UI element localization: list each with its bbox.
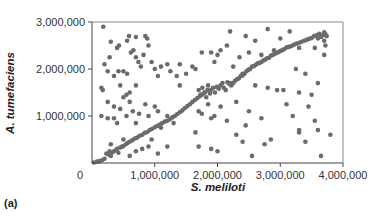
data-point bbox=[319, 154, 324, 159]
data-point bbox=[146, 43, 151, 48]
data-point bbox=[117, 43, 122, 48]
data-point bbox=[134, 121, 139, 126]
data-point bbox=[116, 150, 121, 155]
data-point bbox=[240, 140, 245, 145]
data-point bbox=[323, 43, 328, 48]
data-point bbox=[127, 34, 132, 39]
data-point bbox=[209, 50, 214, 55]
data-point bbox=[153, 104, 158, 109]
data-point bbox=[297, 128, 302, 133]
data-point bbox=[287, 29, 292, 34]
data-point bbox=[324, 34, 329, 39]
data-point bbox=[200, 50, 205, 55]
data-point bbox=[143, 102, 148, 107]
data-point bbox=[212, 114, 217, 119]
data-point bbox=[159, 64, 164, 69]
data-point bbox=[200, 111, 205, 116]
y-tick-label: 2,000,000 bbox=[36, 63, 85, 75]
data-point bbox=[112, 116, 117, 121]
data-point bbox=[165, 144, 170, 149]
data-point bbox=[165, 62, 170, 67]
data-point bbox=[196, 144, 201, 149]
data-point bbox=[141, 53, 146, 58]
data-point bbox=[215, 149, 220, 154]
data-point bbox=[218, 104, 223, 109]
data-point bbox=[259, 53, 264, 58]
x-axis-title: S. meliloti bbox=[191, 181, 246, 193]
y-ticks: 1,000,0002,000,0003,000,000 bbox=[36, 16, 92, 122]
data-point bbox=[156, 151, 161, 156]
data-point bbox=[171, 121, 176, 126]
data-point bbox=[102, 62, 107, 67]
data-point bbox=[193, 67, 198, 72]
data-point bbox=[213, 90, 218, 95]
data-point bbox=[211, 86, 216, 91]
data-point bbox=[200, 86, 205, 91]
data-point bbox=[247, 50, 252, 55]
data-point bbox=[322, 53, 327, 58]
data-point bbox=[209, 147, 214, 152]
data-point bbox=[137, 111, 142, 116]
data-point bbox=[297, 90, 302, 95]
data-point bbox=[115, 121, 120, 126]
data-point bbox=[328, 133, 333, 138]
data-point bbox=[247, 109, 252, 114]
data-point bbox=[228, 29, 233, 34]
data-point bbox=[265, 27, 270, 32]
data-point bbox=[309, 93, 314, 98]
data-point bbox=[281, 88, 286, 93]
data-point bbox=[146, 144, 151, 149]
data-point bbox=[231, 64, 236, 69]
panel-label: (a) bbox=[4, 197, 17, 209]
data-point bbox=[225, 118, 230, 123]
data-point bbox=[140, 147, 145, 152]
data-point bbox=[118, 83, 123, 88]
data-point bbox=[105, 100, 110, 105]
data-point bbox=[262, 142, 267, 147]
data-point bbox=[306, 104, 311, 109]
data-point bbox=[313, 118, 318, 123]
data-point bbox=[243, 34, 248, 39]
data-point bbox=[168, 69, 173, 74]
data-point bbox=[105, 116, 110, 121]
x-tick-label: 1,000,000 bbox=[130, 169, 179, 181]
data-point bbox=[136, 60, 141, 65]
y-axis-title: A. tumefaciens bbox=[4, 52, 16, 135]
data-point bbox=[174, 74, 179, 79]
y-tick-label: 3,000,000 bbox=[36, 16, 85, 28]
data-point bbox=[125, 39, 130, 44]
data-point bbox=[149, 137, 154, 142]
data-point bbox=[212, 60, 217, 65]
data-point bbox=[234, 133, 239, 138]
data-point bbox=[269, 137, 274, 142]
data-point bbox=[102, 157, 107, 162]
data-point bbox=[303, 71, 308, 76]
data-point bbox=[105, 69, 110, 74]
data-point bbox=[284, 102, 289, 107]
data-point bbox=[313, 46, 318, 51]
data-point bbox=[316, 81, 321, 86]
data-point bbox=[107, 55, 112, 60]
data-point bbox=[275, 88, 280, 93]
data-point bbox=[145, 36, 150, 41]
data-point bbox=[165, 114, 170, 119]
data-point bbox=[109, 39, 114, 44]
data-point bbox=[124, 114, 129, 119]
data-point bbox=[206, 83, 211, 88]
data-point bbox=[153, 67, 158, 72]
data-point bbox=[303, 140, 308, 145]
data-point bbox=[259, 116, 264, 121]
data-point bbox=[228, 81, 233, 86]
data-point bbox=[193, 130, 198, 135]
data-point bbox=[127, 100, 132, 105]
data-point bbox=[116, 69, 121, 74]
x-tick-label: 4,000,000 bbox=[319, 169, 368, 181]
points-layer bbox=[92, 24, 333, 164]
data-point bbox=[131, 109, 136, 114]
data-point bbox=[131, 48, 136, 53]
data-point bbox=[291, 114, 296, 119]
data-point bbox=[297, 46, 302, 51]
data-point bbox=[253, 39, 258, 44]
x-ticks: 01,000,0002,000,0003,000,0004,000,000 bbox=[77, 163, 368, 181]
data-point bbox=[134, 149, 139, 154]
